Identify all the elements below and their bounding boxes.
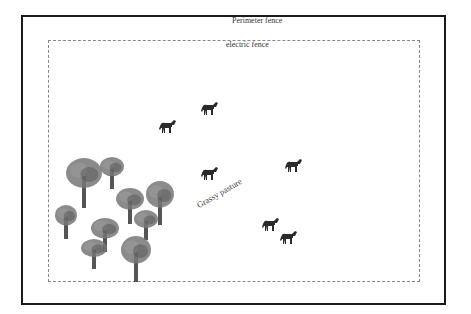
tree-icon [66,158,102,212]
perimeter-fence-label: Perimeter fence [232,16,282,25]
horse-icon [261,216,281,232]
tree-icon [55,205,77,243]
horse-icon [200,165,220,181]
horse-icon [200,100,220,116]
horse-icon [284,157,304,173]
horse-icon [279,229,299,245]
horse-icon [158,118,178,134]
tree-icon [121,236,151,286]
electric-fence-label: electric fence [226,40,269,49]
tree-icon [81,239,107,273]
